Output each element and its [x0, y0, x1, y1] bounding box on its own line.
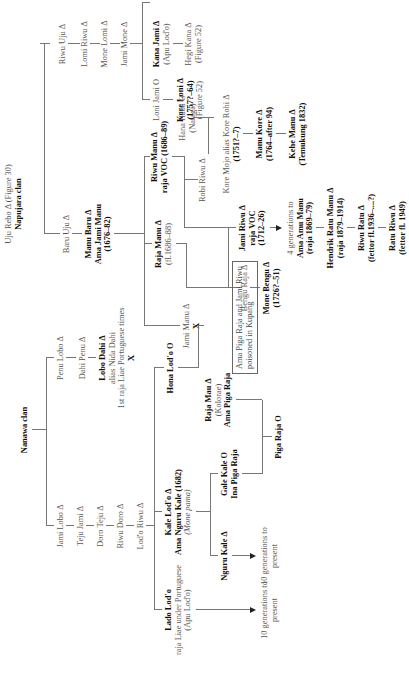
riwu-manu-name: Riwu Manu Δ [150, 121, 160, 193]
connector [196, 609, 252, 610]
connector [144, 156, 145, 326]
hana-haba-name: Hana Haba O [178, 95, 188, 141]
connector [210, 474, 211, 556]
node-baru-uju: Baru Uju Δ [62, 215, 72, 253]
node-mone-lomi: Mone Lomi Δ [100, 20, 110, 67]
arrow-down-icon [250, 553, 256, 559]
connector [173, 43, 183, 44]
node-lado-lodo: Lado Lod'o raja Liae under Portuguese (A… [164, 565, 193, 655]
loni-jami-name: Loni Jami O [152, 79, 162, 121]
node-nguru-kale: Nguru Kale Δ [220, 531, 230, 580]
node-raja-manu: Raja Manu Δ (fl.1686–88) [154, 220, 173, 268]
node-teju-jami: Teju Jami Δ [76, 506, 86, 546]
node-jami-riwu: Jami Riwu Δ raja VOC (1712–26) [238, 205, 267, 251]
node-riwu-doro: Riwu Doro Δ [116, 504, 126, 549]
node-kale-lodo: Kale Lod'o Δ Ama Nguru Kale (1682) (Mone… [164, 469, 193, 555]
connector [232, 555, 250, 556]
connector [144, 325, 180, 326]
connector [110, 43, 120, 44]
note-box: Ama Piga Raja and Jami Riwu poisoned in … [232, 261, 258, 374]
node-kehe-manu: Kehe Manu Δ (Temukung 1832) [288, 103, 307, 166]
connector [144, 243, 152, 244]
connector [72, 233, 82, 234]
node-riwu-uju: Riwu Uju Δ [58, 24, 68, 64]
connector [378, 227, 386, 228]
mone-lomi-name: Mone Lomi Δ [100, 20, 110, 67]
ratu-riwu-name: Ratu Riwu Δ [388, 201, 398, 255]
connector [130, 43, 142, 44]
hendrik-dates: (raja 1879–1914) [336, 188, 346, 269]
ratu-riwu-dates: (fettor fl. 1949) [398, 201, 408, 255]
connector [184, 179, 198, 180]
connector [208, 117, 209, 154]
arrow-down-icon [276, 225, 282, 231]
node-lodo-riwu: Lod'o Riwu Δ [136, 503, 146, 550]
connector [200, 179, 201, 180]
riwu-uju-name: Riwu Uju Δ [58, 24, 68, 64]
kale-lodo-name: Kale Lod'o Δ [164, 469, 174, 555]
connector [178, 367, 198, 368]
connector [66, 357, 76, 358]
connector [154, 609, 162, 610]
jami-riwu-dates: (1712–26) [257, 205, 267, 251]
genealogy-diagram: Uju Rebo Δ (Figure 30) Napujara clan Riw… [0, 0, 409, 674]
connector [66, 525, 74, 526]
node-manu-baru: Manu Baru Δ Ama Jami Manu (1676–82) [84, 204, 113, 265]
connector [210, 555, 218, 556]
connector [142, 2, 150, 3]
marriage-connector [198, 326, 199, 368]
riwu-ratu-name: Riwu Ratu Δ [357, 194, 367, 262]
piga-raja-name: Piga Raja O [274, 415, 284, 459]
kale-lodo-alias: Ama Nguru Kale (1682) [174, 469, 184, 555]
connector [262, 436, 272, 437]
connector [316, 227, 324, 228]
raja-mau-note: (Kolorae) [214, 373, 224, 427]
connector [106, 525, 114, 526]
node-doro-teju: Doro Teju Δ [96, 505, 106, 546]
connector [44, 44, 45, 234]
node-lobo-dahi: Lobo Dahi Δ alias Nida Dahi 1st raja Lia… [98, 308, 136, 409]
connector [154, 511, 162, 512]
mone-bengu-dates: (1726?–51) [272, 262, 282, 315]
lado-descendants-label: 10 generations to present [260, 580, 279, 640]
lado-lodo-note: (Apu Lod'o) [183, 565, 193, 655]
nguru-descendants-label: 10 generations to present [260, 526, 279, 586]
connector [142, 99, 150, 100]
kore-mojo-name: Kore Mojo alias Kore Rohi Δ [222, 94, 232, 193]
connector [68, 43, 80, 44]
raja-mau-alias: Ama Piga Raja [223, 373, 233, 427]
node-piga-raja: Piga Raja O [274, 415, 284, 459]
node-kore-mojo: Kore Mojo alias Kore Rohi Δ (1751?–7) [222, 94, 241, 193]
lobo-dahi-name: Lobo Dahi Δ [98, 308, 108, 409]
kana-jami-note: (Apu Lod'o) [162, 21, 172, 68]
node-lado-descendants: 10 generations to present [260, 580, 279, 640]
four-generations-label: 4 generations to [286, 198, 296, 258]
kana-jami-name: Kana Jami Δ [152, 21, 162, 68]
connector [32, 429, 46, 430]
connector [114, 233, 144, 234]
kore-mojo-dates: (1751?–7) [232, 94, 242, 193]
manu-baru-alias: Ama Jami Manu [94, 204, 104, 265]
connector [154, 367, 164, 368]
connector [46, 525, 54, 526]
kale-lodo-note: (Mone pama) [183, 469, 193, 555]
node-riwu-ratu: Riwu Ratu Δ (fettor fl.1936–....?) [357, 194, 376, 262]
note-line-1: Ama Piga Raja and Jami Riwu [235, 266, 245, 369]
raja-mau-name: Raja Mau Δ [204, 373, 214, 427]
mone-bengu-name: Mone Bengu Δ [262, 262, 272, 315]
gale-kale-alias: Ina Piga Raja [230, 449, 240, 498]
node-robi-riwu: Robi Riwu Δ [198, 158, 208, 202]
doro-teju-name: Doro Teju Δ [96, 505, 106, 546]
nanawa-clan-label: Nanawa clan [20, 407, 30, 453]
connector [46, 357, 54, 358]
node-dahi-penu: Dahi Penu Δ [78, 337, 88, 380]
node-uju-rebo: Uju Rebo Δ (Figure 30) Napujara clan [4, 164, 23, 243]
node-mone-bengu: Mone Bengu Δ (1726?–51) [262, 262, 281, 315]
connector [90, 43, 100, 44]
connector [46, 358, 47, 526]
node-four-generations: 4 generations to Ama Amu Manu (raja 1869… [286, 198, 315, 258]
connector [228, 228, 229, 288]
dahi-penu-name: Dahi Penu Δ [78, 337, 88, 380]
penu-lobo-name: Penu Lobo Δ [56, 336, 66, 380]
node-riwu-manu: Riwu Manu Δ raja VOC (1686–89) [150, 121, 169, 193]
